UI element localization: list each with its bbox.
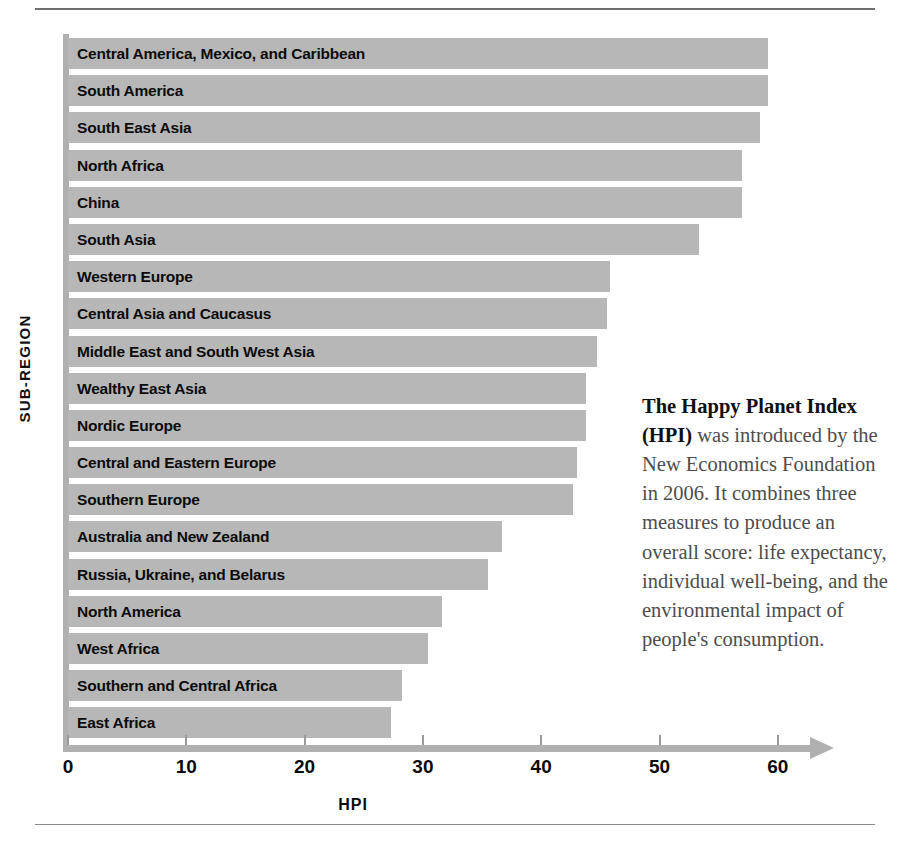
x-axis-tick [422, 735, 424, 745]
x-axis-tick [67, 735, 69, 745]
bar-row: China [68, 187, 868, 224]
bar-category-label: Nordic Europe [77, 410, 181, 441]
x-axis-tick [540, 735, 542, 745]
bar [68, 187, 742, 218]
bar-category-label: Southern Europe [77, 484, 200, 515]
bar-row: East Africa [68, 707, 868, 744]
bar-row: Central Asia and Caucasus [68, 298, 868, 335]
bar-row: Central America, Mexico, and Caribbean [68, 38, 868, 75]
bar-category-label: Wealthy East Asia [77, 373, 206, 404]
x-axis-tick [777, 735, 779, 745]
x-axis-tick-label: 0 [38, 756, 98, 778]
bar-category-label: North Africa [77, 150, 164, 181]
bar-category-label: Central America, Mexico, and Caribbean [77, 38, 365, 69]
bar-category-label: Western Europe [77, 261, 193, 292]
x-axis-tick [185, 735, 187, 745]
bar-row: Western Europe [68, 261, 868, 298]
bar-row: South Asia [68, 224, 868, 261]
bar-row: South East Asia [68, 112, 868, 149]
x-axis-title: HPI [63, 796, 643, 814]
bar-category-label: West Africa [77, 633, 159, 664]
chart-page: SUB-REGION Central America, Mexico, and … [0, 0, 907, 846]
bar [68, 150, 742, 181]
bar-category-label: Southern and Central Africa [77, 670, 277, 701]
bar-row: South America [68, 75, 868, 112]
bar [68, 224, 699, 255]
x-axis-tick-label: 40 [511, 756, 571, 778]
bar-row: Southern and Central Africa [68, 670, 868, 707]
x-axis-tick-label: 50 [630, 756, 690, 778]
bar-category-label: North America [77, 596, 181, 627]
bar-category-label: Central Asia and Caucasus [77, 298, 271, 329]
x-axis-tick [304, 735, 306, 745]
x-axis-tick-label: 10 [156, 756, 216, 778]
bar-category-label: China [77, 187, 119, 218]
bar-category-label: East Africa [77, 707, 155, 738]
side-note-body: was introduced by the New Economics Foun… [642, 424, 888, 650]
x-axis-tick-label: 30 [393, 756, 453, 778]
bar-category-label: South America [77, 75, 183, 106]
bar-row: North Africa [68, 150, 868, 187]
x-axis-arrow-icon [810, 737, 834, 759]
bar-row: Middle East and South West Asia [68, 336, 868, 373]
x-axis-tick-label: 60 [748, 756, 808, 778]
bar-category-label: South Asia [77, 224, 155, 255]
x-axis-tick-label: 20 [275, 756, 335, 778]
bar-category-label: Australia and New Zealand [77, 521, 269, 552]
bar-category-label: Middle East and South West Asia [77, 336, 315, 367]
side-note: The Happy Planet Index (HPI) was introdu… [642, 392, 892, 654]
x-axis-tick [659, 735, 661, 745]
bar-category-label: South East Asia [77, 112, 191, 143]
bar-category-label: Central and Eastern Europe [77, 447, 276, 478]
bar-category-label: Russia, Ukraine, and Belarus [77, 559, 285, 590]
x-axis-line [63, 745, 813, 752]
